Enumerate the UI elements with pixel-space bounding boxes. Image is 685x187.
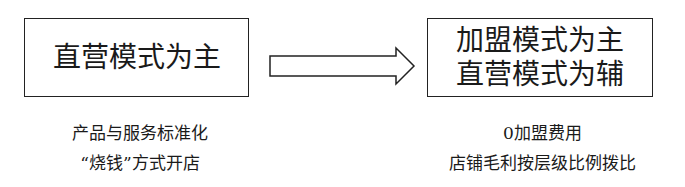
right-caption-line-1: 0加盟费用 bbox=[430, 118, 655, 148]
left-box-direct-operation: 直营模式为主 bbox=[24, 18, 249, 97]
right-box-franchise: 加盟模式为主 直营模式为辅 bbox=[427, 18, 653, 97]
left-caption-line-2: “烧钱”方式开店 bbox=[40, 148, 240, 178]
left-caption-line-1: 产品与服务标准化 bbox=[40, 118, 240, 148]
right-box-line-2: 直营模式为辅 bbox=[456, 58, 624, 92]
left-box-text: 直营模式为主 bbox=[53, 41, 221, 75]
right-arrow-icon bbox=[268, 46, 416, 86]
right-caption: 0加盟费用 店铺毛利按层级比例拨比 bbox=[430, 118, 655, 178]
left-caption: 产品与服务标准化 “烧钱”方式开店 bbox=[40, 118, 240, 178]
right-box-line-1: 加盟模式为主 bbox=[456, 24, 624, 58]
right-caption-line-2: 店铺毛利按层级比例拨比 bbox=[430, 148, 655, 178]
